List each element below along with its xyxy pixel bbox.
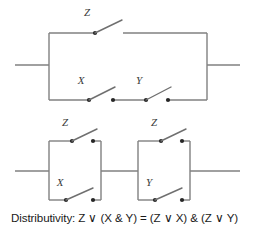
bl-x-switch-contact-node (91, 198, 95, 202)
figure-caption: Distributivity: Z ∨ (X & Y) = (Z ∨ X) & … (11, 211, 256, 225)
br-y-switch-contact-node (180, 198, 184, 202)
top-z-switch-label: Z (84, 6, 91, 18)
top-x-switch-label: X (77, 74, 86, 86)
top-x-switch-contact-node (111, 98, 115, 102)
top-y-switch-contact-node (166, 98, 170, 102)
br-y-switch-blade (155, 188, 182, 200)
br-z-switch-contact-node (180, 139, 184, 143)
bl-z-switch-contact-node (91, 139, 95, 143)
top-x-switch-blade (89, 87, 115, 100)
top-z-switch-blade (95, 20, 122, 33)
bl-x-switch-blade (66, 188, 93, 200)
br-y-switch-label: Y (146, 176, 154, 188)
bottom-left-circuit-group: Z X (15, 116, 101, 202)
bl-x-switch-label: X (56, 176, 65, 188)
br-z-switch-label: Z (151, 116, 158, 128)
bl-z-switch-label: Z (62, 116, 69, 128)
bottom-right-circuit-group: Z Y (138, 116, 240, 202)
top-y-switch-label: Y (136, 74, 144, 86)
circuit-diagram-figure: Z X Y Z (0, 0, 261, 238)
top-circuit-group: Z X Y (15, 6, 240, 102)
circuit-svg-canvas: Z X Y Z (0, 0, 261, 238)
